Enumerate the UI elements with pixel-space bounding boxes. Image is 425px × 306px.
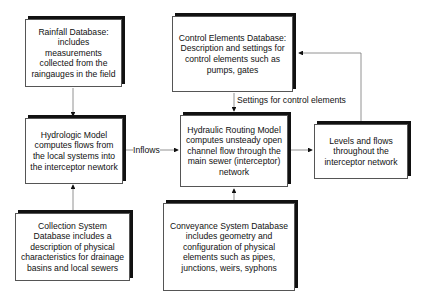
levels-and-flows-box: Levels and flows throughout the intercep… — [314, 124, 408, 179]
control-elements-database-box: Control Elements Database: Description a… — [172, 16, 293, 92]
control-elements-database-text: Control Elements Database: Description a… — [176, 33, 289, 75]
collection-system-database-text: Collection System Database includes a de… — [19, 221, 126, 274]
rainfall-database-box: Rainfall Database: includes measurements… — [25, 19, 122, 87]
rainfall-database-text: Rainfall Database: includes measurements… — [29, 27, 118, 80]
hydrologic-model-text: Hydrologic Model computes flows from the… — [29, 130, 119, 172]
hydrologic-model-box: Hydrologic Model computes flows from the… — [25, 118, 123, 184]
hydraulic-routing-model-text: Hydraulic Routing Model computes unstead… — [184, 125, 284, 178]
inflows-label: Inflows — [133, 145, 160, 155]
collection-system-database-box: Collection System Database includes a de… — [15, 213, 130, 281]
conveyance-system-database-box: Conveyance System Database includes geom… — [163, 203, 295, 291]
settings-label: Settings for control elements — [237, 95, 346, 105]
hydraulic-routing-model-box: Hydraulic Routing Model computes unstead… — [180, 115, 288, 187]
conveyance-system-database-text: Conveyance System Database includes geom… — [167, 221, 291, 274]
levels-and-flows-text: Levels and flows throughout the intercep… — [318, 136, 404, 168]
